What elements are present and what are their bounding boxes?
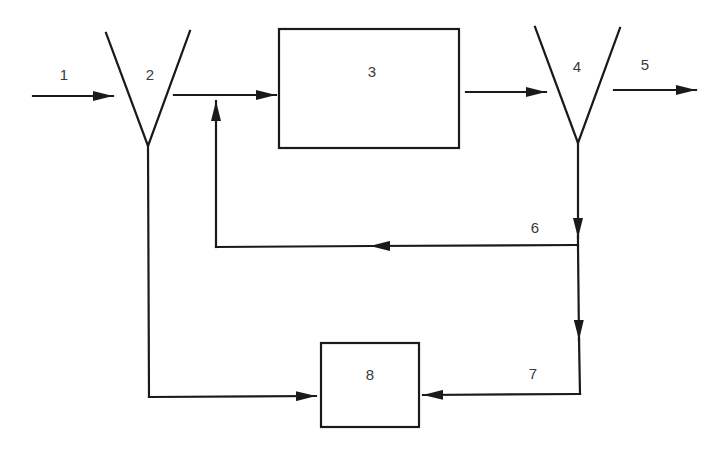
stream-7-label: 7 <box>529 366 537 381</box>
unit-3-label: 3 <box>368 64 376 79</box>
underflow-2-to-8-arrow <box>149 396 316 397</box>
separator-2-funnel <box>106 31 190 146</box>
unit-8-label: 8 <box>366 367 374 382</box>
separator-4-funnel <box>535 27 620 143</box>
diagram-graphics <box>0 0 725 450</box>
stream-5-label: 5 <box>641 57 649 72</box>
stream-7-down-line <box>579 338 580 394</box>
separator-4-label: 4 <box>573 59 581 74</box>
separator-2-label: 2 <box>146 67 154 82</box>
unit-3-box <box>279 29 459 148</box>
stream-7-arrow <box>423 394 580 395</box>
underflow-2-down-line <box>148 146 149 397</box>
stream-7-down-arrow <box>578 246 579 340</box>
stream-6-segment-a <box>370 245 576 246</box>
process-flow-diagram: 1 2 3 4 5 6 7 8 <box>0 0 725 450</box>
stream-6-label: 6 <box>531 220 539 235</box>
stream-1-label: 1 <box>60 67 68 82</box>
stream-6-segment-b <box>216 246 372 247</box>
unit-8-box <box>321 343 419 427</box>
